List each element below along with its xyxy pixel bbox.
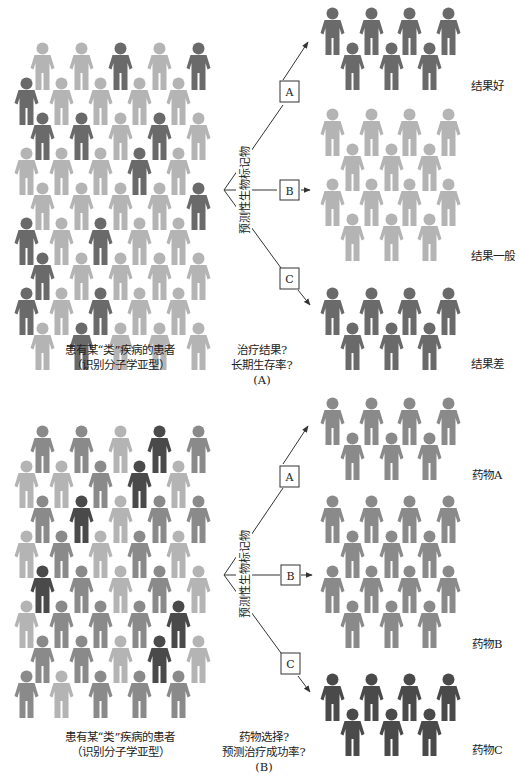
- person-icon: [398, 8, 422, 56]
- person-icon: [128, 531, 152, 579]
- person-icon: [398, 288, 422, 336]
- person-icon: [109, 113, 133, 161]
- person-icon: [380, 323, 404, 371]
- person-icon: [398, 674, 422, 722]
- caption-line-2: （识别分子学亚型）: [40, 358, 200, 373]
- branch-line-a: [224, 488, 283, 575]
- person-icon: [187, 426, 211, 474]
- person-icon: [167, 218, 191, 266]
- person-icon: [341, 709, 365, 757]
- drug-label-b: 药物B: [472, 637, 502, 652]
- person-icon: [148, 113, 172, 161]
- patient-caption-b: 患有某“类”疾病的患者 （识别分子学亚型）: [40, 730, 200, 760]
- box-a: A: [280, 81, 299, 102]
- person-icon: [321, 674, 345, 722]
- person-icon: [128, 148, 152, 196]
- branch-line-c: [224, 575, 281, 653]
- patient-caption-a: 患有某“类”疾病的患者 （识别分子学亚型）: [40, 343, 200, 373]
- person-icon: [31, 183, 55, 231]
- person-icon: [341, 43, 365, 91]
- person-icon: [398, 109, 422, 157]
- person-icon: [360, 674, 384, 722]
- box-c-letter: C: [285, 273, 293, 286]
- person-icon: [50, 531, 74, 579]
- person-icon: [128, 288, 152, 336]
- person-icon: [437, 8, 461, 56]
- box-b-letter: B: [286, 570, 294, 583]
- question-line-1: 药物选择?: [216, 730, 312, 745]
- person-icon: [50, 288, 74, 336]
- person-icon: [70, 253, 94, 301]
- person-icon: [380, 433, 404, 481]
- person-icon: [15, 288, 39, 336]
- person-icon: [50, 148, 74, 196]
- person-icon: [128, 461, 152, 509]
- outcome-label-average: 结果一般: [471, 249, 515, 264]
- person-icon: [437, 109, 461, 157]
- person-icon: [321, 109, 345, 157]
- caption-line-1: 患有某“类”疾病的患者: [40, 343, 200, 358]
- person-icon: [128, 601, 152, 649]
- person-icon: [31, 496, 55, 544]
- person-icon: [341, 323, 365, 371]
- person-icon: [187, 566, 211, 614]
- question-b: 药物选择? 预测治疗成功率? (B): [216, 730, 312, 775]
- person-icon: [15, 148, 39, 196]
- question-line-1: 治疗结果?: [222, 343, 302, 358]
- person-icon: [167, 601, 191, 649]
- box-c: C: [280, 268, 299, 289]
- person-icon: [31, 253, 55, 301]
- person-icon: [15, 461, 39, 509]
- person-icon: [70, 496, 94, 544]
- person-icon: [437, 566, 461, 614]
- outcome-group-good: [321, 8, 461, 91]
- person-icon: [187, 636, 211, 684]
- person-icon: [437, 179, 461, 227]
- person-icon: [109, 636, 133, 684]
- person-icon: [148, 496, 172, 544]
- branch-arrow-a: [283, 426, 308, 464]
- person-icon: [109, 183, 133, 231]
- panel-label-b: (B): [216, 760, 312, 775]
- person-icon: [15, 671, 39, 719]
- person-icon: [321, 8, 345, 56]
- person-icon: [418, 601, 442, 649]
- person-icon: [148, 43, 172, 91]
- person-icon: [109, 43, 133, 91]
- branch-line-c: [224, 190, 281, 268]
- person-icon: [31, 426, 55, 474]
- person-icon: [15, 601, 39, 649]
- person-icon: [167, 78, 191, 126]
- box-b-letter: B: [285, 185, 293, 198]
- person-icon: [70, 43, 94, 91]
- person-icon: [89, 531, 113, 579]
- person-icon: [418, 214, 442, 262]
- person-icon: [31, 113, 55, 161]
- person-icon: [50, 601, 74, 649]
- person-icon: [341, 433, 365, 481]
- person-icon: [148, 636, 172, 684]
- person-icon: [89, 461, 113, 509]
- drug-group-a: [321, 398, 461, 481]
- person-icon: [380, 709, 404, 757]
- person-icon: [418, 709, 442, 757]
- branch-arrow-c: [298, 290, 310, 305]
- person-icon: [109, 253, 133, 301]
- person-icon: [70, 113, 94, 161]
- outcome-group-poor: [321, 288, 461, 371]
- person-icon: [167, 461, 191, 509]
- outcome-group-average: [321, 109, 461, 262]
- person-icon: [380, 601, 404, 649]
- box-b: B: [280, 180, 299, 200]
- patient-crowd-a: [15, 43, 211, 371]
- person-icon: [109, 496, 133, 544]
- question-a: 治疗结果? 长期生存率? (A): [222, 343, 302, 388]
- person-icon: [31, 636, 55, 684]
- branch-arrow-a: [283, 42, 308, 80]
- person-icon: [167, 671, 191, 719]
- box-a: A: [280, 466, 299, 487]
- person-icon: [167, 288, 191, 336]
- person-icon: [167, 148, 191, 196]
- person-icon: [341, 144, 365, 192]
- person-icon: [70, 426, 94, 474]
